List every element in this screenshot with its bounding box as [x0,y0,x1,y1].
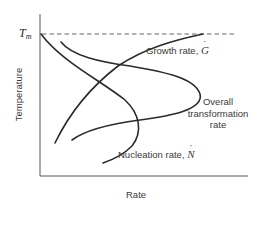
growth-rate-label: Growth rate, G [146,45,209,56]
nucleation-rate-curve [41,34,139,163]
nucleation-rate-text: Nucleation rate, [118,149,185,160]
nucleation-rate-label: Nucleation rate, N [118,149,195,160]
x-axis-label: Rate [126,189,146,200]
overall-label-line-2: transformation [180,108,256,120]
tm-subscript: m [26,32,32,41]
overall-transformation-label: Overall transformation rate [180,96,256,131]
tm-symbol: T [19,26,26,40]
nucleation-rate-symbol: N [187,149,194,160]
growth-rate-text: Growth rate, [146,45,198,56]
overall-label-line-1: Overall [180,96,256,108]
y-axis-label: Temperature [13,60,24,130]
overall-label-line-3: rate [180,119,256,131]
growth-rate-symbol: G [201,45,209,56]
tm-label: Tm [19,26,31,41]
